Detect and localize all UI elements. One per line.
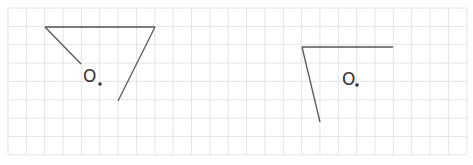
diagram-svg: O O <box>0 0 473 165</box>
ray-segment <box>302 47 320 122</box>
point-o-label-left: O <box>83 66 96 86</box>
grid-diagram: O O <box>0 0 473 165</box>
point-o-dot <box>98 82 102 86</box>
point-o-label-right: O <box>342 69 355 89</box>
right-figure: O <box>302 47 393 122</box>
grid-lines <box>8 8 467 155</box>
point-o-dot <box>355 83 359 87</box>
